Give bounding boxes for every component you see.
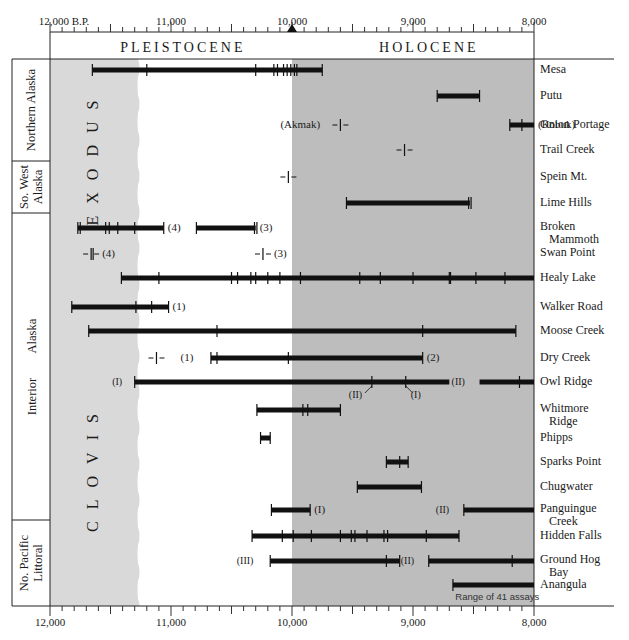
top-tick-label: 10,000 (277, 15, 307, 27)
range-label: (I) (112, 375, 122, 388)
range-bar (135, 380, 450, 385)
bottom-tick-label: 11,000 (156, 616, 186, 628)
callout-label: (I) (411, 388, 421, 401)
top-tick-label: 12,000 B.P. (39, 15, 90, 27)
range-label: (Kobuk) (538, 118, 575, 131)
site-label: Anangula (540, 578, 587, 591)
range-bar (453, 583, 534, 588)
callout-label: (II) (349, 388, 362, 401)
range-label: (4) (168, 221, 181, 234)
region-label-no-pacific-littoral: No. PacificLittoral (17, 520, 45, 606)
top-tick-label: 8,000 (522, 15, 547, 27)
top-tick-label: 9,000 (401, 15, 426, 27)
anangula-note: Range of 41 assays (455, 591, 539, 602)
point-label: (4) (102, 247, 115, 260)
site-label: Ridge (549, 415, 578, 428)
site-label: Phipps (540, 431, 573, 444)
site-label: Dry Creek (540, 351, 590, 364)
site-label: Swan Point (540, 246, 595, 259)
site-label: Moose Creek (540, 324, 604, 337)
range-bar (211, 356, 423, 361)
range-label: (2) (427, 351, 440, 364)
site-label: Chugwater (540, 480, 593, 493)
range-bar (346, 201, 469, 206)
radiocarbon-range-chart: 12,000 B.P.11,00010,0009,0008,00012,0001… (0, 0, 629, 640)
bottom-tick-label: 12,000 (35, 616, 65, 628)
range-bar (271, 508, 310, 513)
point-label: (3) (274, 247, 287, 260)
range-bar (92, 68, 322, 73)
site-label: Trail Creek (540, 143, 595, 156)
range-bar (429, 559, 534, 564)
range-bar (252, 534, 459, 539)
range-bar (257, 408, 340, 413)
point-label: (Akmak) (280, 118, 320, 131)
range-bar (121, 276, 534, 281)
region-label-so-west-alaska: So. WestAlaska (17, 161, 45, 213)
bottom-tick-label: 10,000 (277, 616, 307, 628)
range-bar (464, 508, 534, 513)
range-bar (196, 226, 255, 231)
range-label: (I) (314, 503, 325, 516)
site-label: Creek (549, 515, 578, 528)
region-label-northern-alaska: Northern Alaska (17, 59, 45, 161)
range-label: (II) (436, 503, 449, 516)
site-label: Spein Mt. (540, 170, 587, 183)
site-label: Hidden Falls (540, 529, 602, 542)
point-label: (1) (180, 351, 193, 364)
site-label: Sparks Point (540, 455, 601, 468)
site-label: Healy Lake (540, 271, 596, 284)
range-label: (II) (401, 554, 414, 567)
bottom-tick-label: 9,000 (401, 616, 426, 628)
range-label: (1) (173, 300, 186, 313)
site-label: Owl Ridge (540, 375, 592, 388)
site-label: Putu (540, 89, 562, 102)
range-label: (3) (260, 221, 273, 234)
range-bar (89, 329, 516, 334)
range-bar (72, 305, 169, 310)
range-bar (261, 436, 271, 441)
range-label: (II) (452, 375, 465, 388)
complex-label-clovis: CLOVIS (84, 397, 102, 537)
range-bar (437, 94, 479, 99)
complex-label-exodus: EXODUS (84, 87, 102, 227)
site-label: Walker Road (540, 300, 603, 313)
range-bar (357, 485, 421, 490)
site-label: Mesa (540, 63, 566, 76)
region-label-interior-alaska: Interior Alaska (17, 213, 45, 520)
range-bar (270, 559, 399, 564)
bottom-tick-label: 8,000 (522, 616, 547, 628)
epoch-pleistocene: PLEISTOCENE (120, 40, 245, 56)
site-label: Lime Hills (540, 196, 592, 209)
top-tick-label: 11,000 (156, 15, 186, 27)
epoch-holocene: HOLOCENE (379, 40, 478, 56)
range-bar (386, 460, 408, 465)
range-bar (480, 380, 534, 385)
range-label: (III) (237, 554, 254, 567)
